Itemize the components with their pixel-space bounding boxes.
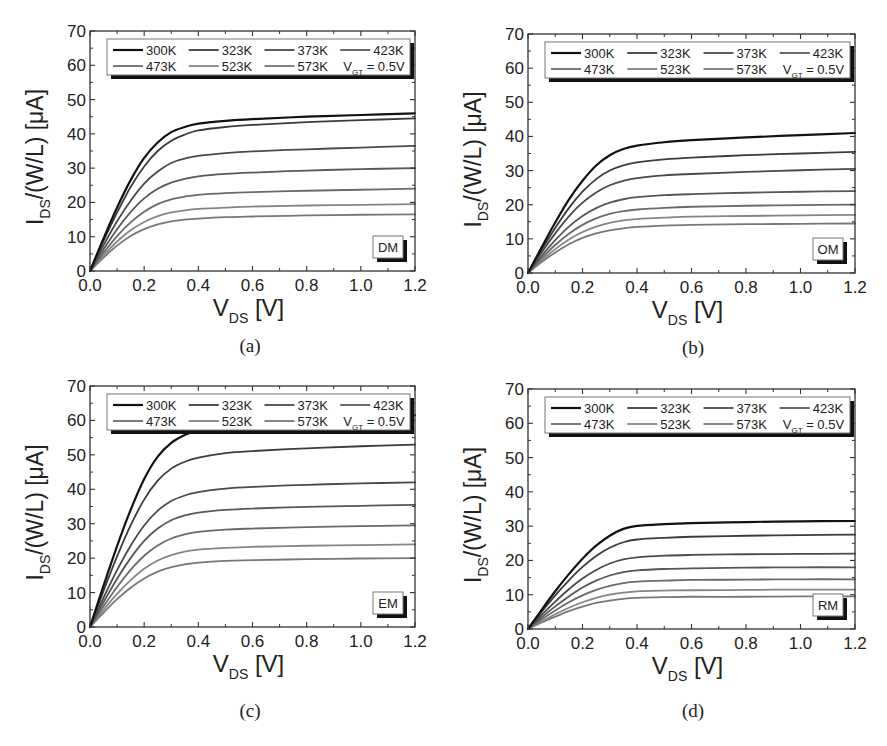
y-tick-label: 40 [505, 127, 524, 146]
series-line-473k [90, 189, 415, 271]
y-tick-label: 20 [505, 551, 524, 570]
chart-panel-dm: 0.00.20.40.60.81.01.2010203040506070VDS … [22, 22, 427, 357]
chart-panel-em: 0.00.20.40.60.81.01.2010203040506070VDS … [22, 377, 427, 722]
y-tick-label: 30 [505, 162, 524, 181]
legend: 300K323K373K423K473K523K573KVGT = 0.5V [107, 39, 414, 79]
x-axis-title: VDS [V] [652, 652, 723, 684]
y-axis-title: IDS/(W/L) [μA] [460, 91, 491, 227]
legend-label: 323K [222, 398, 253, 413]
legend-label: 523K [660, 62, 691, 77]
legend-label: 300K [584, 401, 615, 416]
y-tick-label: 60 [505, 59, 524, 78]
y-tick-label: 70 [505, 25, 524, 44]
x-axis-title: VDS [V] [213, 294, 284, 326]
legend-label: 300K [584, 46, 615, 61]
y-tick-label: 70 [67, 377, 86, 396]
legend-label: 323K [660, 46, 691, 61]
legend-label: 423K [813, 401, 844, 416]
series-line-323k [90, 118, 415, 271]
legend-label: 373K [737, 401, 768, 416]
data-series-group [528, 521, 855, 629]
legend-label: 323K [660, 401, 691, 416]
panel-tag-label: RM [818, 598, 838, 613]
series-line-473k [90, 525, 415, 627]
y-tick-label: 20 [67, 549, 86, 568]
panel-caption: (c) [239, 700, 260, 722]
data-series-group [90, 113, 415, 271]
series-line-423k [90, 505, 415, 627]
y-tick-label: 40 [67, 480, 86, 499]
x-tick-label: 1.2 [843, 634, 867, 653]
series-line-573k [90, 558, 415, 627]
x-tick-label: 1.0 [789, 634, 813, 653]
legend-label: 523K [660, 417, 691, 432]
legend-label: 523K [222, 59, 253, 74]
x-axis-title: VDS [V] [213, 650, 284, 682]
legend-label: 523K [222, 414, 253, 429]
x-tick-label: 0.8 [295, 632, 319, 651]
chart-panel-rm: 0.00.20.40.60.81.01.2010203040506070VDS … [460, 380, 867, 722]
legend-label: 473K [584, 62, 615, 77]
legend-label: 373K [298, 43, 329, 58]
legend: 300K323K373K423K473K523K573KVGT = 0.5V [545, 42, 854, 82]
y-axis-title: IDS/(W/L) [μA] [22, 444, 53, 580]
y-tick-label: 20 [505, 196, 524, 215]
data-series-group [90, 415, 415, 627]
legend-label: 573K [298, 414, 329, 429]
series-line-423k [90, 168, 415, 271]
legend-label: 373K [737, 46, 768, 61]
legend-label: 323K [222, 43, 253, 58]
legend-label: 423K [813, 46, 844, 61]
y-tick-label: 30 [67, 159, 86, 178]
y-tick-label: 70 [67, 22, 86, 41]
x-tick-label: 0.6 [241, 632, 265, 651]
figure-canvas: 0.00.20.40.60.81.01.2010203040506070VDS … [0, 0, 887, 746]
x-tick-label: 1.2 [403, 276, 427, 295]
y-tick-label: 10 [67, 228, 86, 247]
legend: 300K323K373K423K473K523K573KVGT = 0.5V [545, 397, 854, 437]
x-tick-label: 0.6 [680, 278, 704, 297]
x-tick-label: 1.0 [349, 276, 373, 295]
legend-label: 573K [737, 62, 768, 77]
x-tick-label: 0.6 [241, 276, 265, 295]
x-tick-label: 0.4 [625, 278, 649, 297]
y-tick-label: 40 [505, 483, 524, 502]
panel-tag-label: OM [818, 242, 839, 257]
y-axis-title: IDS/(W/L) [μA] [460, 447, 491, 583]
x-tick-label: 1.0 [349, 632, 373, 651]
y-tick-label: 0 [515, 264, 524, 283]
x-tick-label: 1.2 [843, 278, 867, 297]
legend-label: 423K [373, 398, 404, 413]
series-line-373k [90, 482, 415, 627]
y-tick-label: 10 [67, 584, 86, 603]
panel-tag-label: DM [378, 240, 398, 255]
y-tick-label: 30 [505, 517, 524, 536]
panel-tag: DM [373, 236, 407, 262]
legend-label: 373K [298, 398, 329, 413]
y-tick-label: 20 [67, 193, 86, 212]
panel-tag-label: EM [378, 596, 398, 611]
x-tick-label: 0.8 [734, 634, 758, 653]
y-tick-label: 30 [67, 515, 86, 534]
series-line-573k [528, 223, 855, 273]
legend-label: 573K [737, 417, 768, 432]
legend-label: 473K [146, 414, 177, 429]
series-line-523k [90, 544, 415, 627]
series-line-423k [528, 191, 855, 273]
y-tick-label: 60 [505, 414, 524, 433]
x-tick-label: 0.8 [295, 276, 319, 295]
chart-panel-om: 0.00.20.40.60.81.01.2010203040506070VDS … [460, 25, 867, 359]
panel-tag: OM [813, 238, 847, 264]
y-tick-label: 0 [515, 620, 524, 639]
x-tick-label: 0.4 [625, 634, 649, 653]
x-axis-title: VDS [V] [652, 296, 723, 328]
y-tick-label: 60 [67, 56, 86, 75]
legend: 300K323K373K423K473K523K573KVGT = 0.5V [107, 394, 414, 434]
x-tick-label: 0.8 [734, 278, 758, 297]
y-tick-label: 0 [77, 618, 86, 637]
x-tick-label: 1.2 [403, 632, 427, 651]
data-series-group [528, 133, 855, 273]
panel-caption: (b) [682, 337, 704, 359]
panel-tag: EM [373, 592, 407, 618]
y-tick-label: 70 [505, 380, 524, 399]
